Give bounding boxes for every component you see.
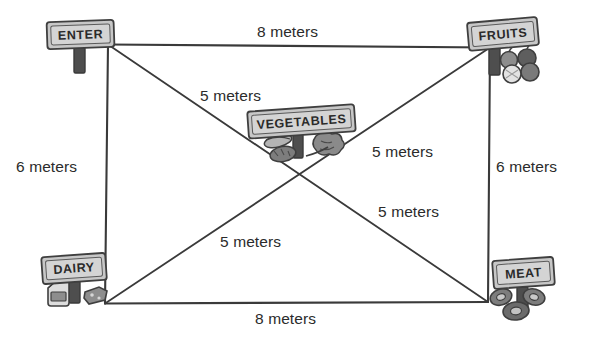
measure-diagonal-bottom-right-5-meters: 5 meters [378,203,439,221]
dairy-sign-post [69,281,80,303]
sign-dairy[interactable]: DAIRY [41,253,107,306]
enter-sign-label: ENTER [58,27,104,43]
dairy-sign-label: DAIRY [53,260,95,277]
measure-bottom-8-meters: 8 meters [255,310,316,328]
rectangle-bottom-edge [105,302,488,304]
store-diagonals [105,45,490,304]
sign-enter[interactable]: ENTER [47,20,115,73]
meat-sign-label: MEAT [505,265,543,282]
diagram-canvas: ENTER FRUITS [0,0,600,339]
measure-diagonal-top-left-5-meters: 5 meters [200,87,261,105]
measure-diagonal-top-right-5-meters: 5 meters [372,143,433,161]
measure-left-6-meters: 6 meters [16,158,77,176]
enter-sign-post [74,47,85,73]
dairy-cheese-icon [84,287,107,304]
fruits-produce-icon [501,43,540,83]
measure-diagonal-bottom-left-5-meters: 5 meters [220,233,281,251]
sign-fruits[interactable]: FRUITS [467,17,539,83]
sign-meat[interactable]: MEAT [488,257,555,322]
rectangle-top-edge [108,45,490,48]
measure-right-6-meters: 6 meters [496,158,557,176]
dairy-milk-carton-icon [48,281,69,306]
measure-top-8-meters: 8 meters [257,23,318,41]
sign-vegetables[interactable]: VEGETABLES [247,104,356,163]
rectangle-right-edge [488,48,490,303]
